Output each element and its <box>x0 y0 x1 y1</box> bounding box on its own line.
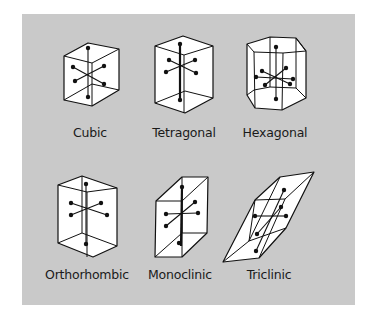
triclinic-crystal-icon <box>0 0 377 321</box>
triclinic-label: Triclinic <box>247 267 292 282</box>
